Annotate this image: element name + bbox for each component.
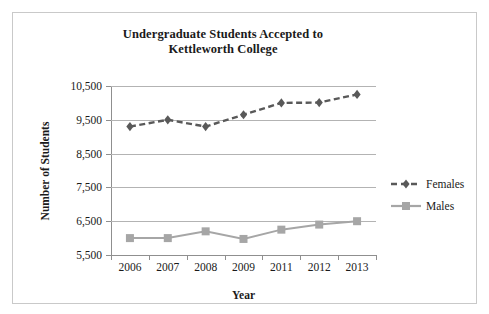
data-point-marker	[316, 98, 323, 107]
x-axis-tick-label: 2009	[232, 261, 255, 273]
chart-title-line-1: Undergraduate Students Accepted to	[73, 27, 373, 42]
data-point-marker	[315, 221, 323, 229]
x-axis-tick-label: 2006	[118, 261, 141, 273]
legend-item-males[interactable]: Males	[391, 195, 486, 217]
y-axis-tick-label: 8,500	[76, 148, 102, 160]
plot-area: 5,5006,5007,5008,5009,50010,500 20062007…	[111, 86, 376, 255]
x-axis-tick-label: 2007	[156, 261, 179, 273]
x-axis-tick	[111, 255, 112, 260]
data-point-marker	[240, 110, 247, 119]
x-axis-tick	[300, 255, 301, 260]
data-point-marker	[126, 234, 134, 242]
gridline	[111, 255, 376, 256]
plot-inner: 5,5006,5007,5008,5009,50010,500 20062007…	[111, 86, 376, 255]
data-point-marker	[202, 227, 210, 235]
data-point-marker	[164, 115, 171, 124]
y-axis-tick-label: 7,500	[76, 181, 102, 193]
x-axis-tick-label: 2013	[346, 261, 369, 273]
legend-key-square-icon	[391, 199, 421, 213]
y-axis-tick-label: 6,500	[76, 215, 102, 227]
x-axis-tick-label: 2011	[270, 261, 293, 273]
x-axis-tick	[225, 255, 226, 260]
y-axis-title: Number of Students	[37, 96, 53, 246]
series-males	[126, 217, 361, 243]
x-axis-tick-label: 2008	[194, 261, 217, 273]
data-point-marker	[164, 234, 172, 242]
x-axis-tick-label: 2012	[308, 261, 331, 273]
data-point-marker	[277, 226, 285, 234]
data-point-marker	[353, 90, 360, 99]
chart-legend: FemalesMales	[391, 173, 486, 217]
x-axis-tick	[149, 255, 150, 260]
y-axis-tick-label: 9,500	[76, 114, 102, 126]
data-point-marker	[278, 98, 285, 107]
data-point-marker	[353, 217, 361, 225]
x-axis-tick	[338, 255, 339, 260]
y-axis-tick-label: 10,500	[70, 80, 102, 92]
legend-item-females[interactable]: Females	[391, 173, 486, 195]
chart-title-line-2: Kettleworth College	[73, 42, 373, 57]
chart-frame: Undergraduate Students Accepted to Kettl…	[12, 12, 477, 304]
chart-title: Undergraduate Students Accepted to Kettl…	[73, 27, 373, 57]
legend-label: Females	[426, 178, 464, 190]
y-axis-title-label: Number of Students	[39, 122, 51, 221]
data-point-marker	[240, 235, 248, 243]
series-females	[126, 90, 360, 131]
x-axis-tick	[187, 255, 188, 260]
y-axis-tick-label: 5,500	[76, 249, 102, 261]
data-point-marker	[202, 122, 209, 131]
x-axis-title: Year	[111, 289, 376, 301]
x-axis-tick	[376, 255, 377, 260]
x-axis-tick	[262, 255, 263, 260]
series-plot	[111, 86, 376, 255]
legend-key-diamond-icon	[391, 177, 421, 191]
data-point-marker	[126, 122, 133, 131]
legend-label: Males	[426, 200, 454, 212]
